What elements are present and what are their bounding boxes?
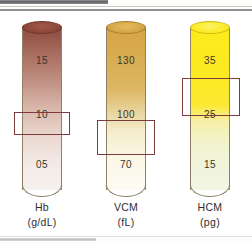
figure-page: 15 10 05 Hb (g/dL) 130 100 70 VCM (fL) (0, 0, 252, 244)
scan-artifact-bottom-bar (0, 238, 96, 241)
tick-hcm-high: 35 (190, 55, 230, 66)
cylinder-hcm-top-ellipse (190, 21, 230, 34)
column-hb: 15 10 05 Hb (g/dL) (0, 11, 84, 236)
cylinder-vcm: 130 100 70 (106, 21, 146, 196)
tick-vcm-high: 130 (106, 55, 146, 66)
reference-box-vcm (97, 120, 155, 155)
column-hcm: 35 25 15 HCM (pg) (168, 11, 252, 236)
tick-hcm-low: 15 (190, 159, 230, 170)
axis-label-vcm-unit: (fL) (84, 216, 168, 228)
figure-bottom-border (0, 236, 252, 237)
axis-label-hcm-name: HCM (168, 201, 252, 213)
axis-label-hcm-unit: (pg) (168, 216, 252, 228)
tick-hb-low: 05 (22, 159, 62, 170)
axis-label-hb-unit: (g/dL) (0, 216, 84, 228)
tick-vcm-mid: 100 (106, 109, 146, 120)
cylinder-vcm-top-ellipse (106, 21, 146, 34)
reference-box-hb (14, 112, 70, 135)
cylinder-hb: 15 10 05 (22, 21, 62, 196)
scan-artifact-top-rule (0, 6, 252, 7)
cylinder-hb-top-ellipse (22, 21, 62, 34)
column-vcm: 130 100 70 VCM (fL) (84, 11, 168, 236)
axis-label-vcm-name: VCM (84, 201, 168, 213)
scan-artifact-top-bar (0, 0, 108, 4)
cylinder-chart: 15 10 05 Hb (g/dL) 130 100 70 VCM (fL) (0, 11, 252, 236)
axis-label-hb-name: Hb (0, 201, 84, 213)
reference-box-hcm (182, 78, 240, 116)
tick-hb-high: 15 (22, 55, 62, 66)
tick-vcm-low: 70 (106, 159, 146, 170)
